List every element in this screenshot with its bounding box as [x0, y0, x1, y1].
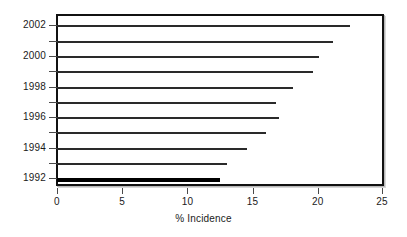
y-axis-tick-marks	[48, 16, 57, 184]
x-tick	[57, 188, 58, 194]
y-tick-label-1996: 1996	[23, 112, 46, 122]
bar-2000	[57, 56, 319, 58]
x-tick-label-10: 10	[182, 196, 194, 208]
y-tick	[49, 163, 57, 164]
bar-1998	[57, 87, 293, 89]
x-axis-title: % Incidence	[0, 213, 407, 225]
incidence-bar-chart: 200220001998199619941992 0510152025 % In…	[0, 0, 407, 237]
y-tick	[49, 132, 57, 133]
x-axis-tick-marks	[57, 188, 383, 195]
x-tick-label-15: 15	[247, 196, 259, 208]
bar-1992	[57, 178, 220, 182]
y-axis-labels: 200220001998199619941992	[0, 16, 46, 184]
x-axis-labels: 0510152025	[0, 196, 407, 210]
x-tick	[187, 188, 188, 194]
x-tick-label-5: 5	[119, 196, 125, 208]
y-tick-label-1992: 1992	[23, 173, 46, 183]
bar-2002	[57, 25, 350, 27]
plot-area	[57, 16, 383, 184]
y-tick	[49, 117, 57, 118]
y-tick-label-1994: 1994	[23, 143, 46, 153]
x-tick	[318, 188, 319, 194]
x-tick	[253, 188, 254, 194]
bar-1999	[57, 71, 313, 73]
y-tick	[49, 41, 57, 42]
bar-1997	[57, 102, 276, 104]
x-tick-label-25: 25	[376, 196, 388, 208]
bar-1993	[57, 163, 227, 165]
y-tick	[49, 71, 57, 72]
y-tick	[49, 25, 57, 26]
bar-2001	[57, 41, 333, 43]
y-tick	[49, 56, 57, 57]
y-tick-label-2002: 2002	[23, 20, 46, 30]
x-tick-label-0: 0	[54, 196, 60, 208]
y-tick-label-2000: 2000	[23, 51, 46, 61]
x-tick	[122, 188, 123, 194]
y-tick	[49, 87, 57, 88]
y-tick	[49, 178, 57, 179]
y-tick-label-1998: 1998	[23, 82, 46, 92]
x-tick-label-20: 20	[312, 196, 324, 208]
y-tick	[49, 102, 57, 103]
bar-1995	[57, 132, 266, 134]
y-tick	[49, 148, 57, 149]
bar-1996	[57, 117, 279, 119]
bar-1994	[57, 148, 247, 150]
x-tick	[382, 188, 383, 194]
